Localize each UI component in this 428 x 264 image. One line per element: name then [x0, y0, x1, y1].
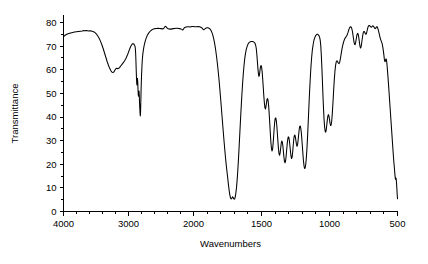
- x-tick-label: 3000: [118, 218, 139, 229]
- y-axis-title: Transmittance: [9, 84, 20, 144]
- spectrum-curve: [64, 26, 398, 200]
- y-axis-tick-labels: 01020304050607080: [46, 17, 57, 217]
- x-axis-title: Wavenumbers: [200, 238, 261, 249]
- y-tick-label: 80: [46, 17, 57, 28]
- y-tick-label: 10: [46, 182, 57, 193]
- y-tick-label: 20: [46, 159, 57, 170]
- x-tick-label: 500: [390, 218, 406, 229]
- y-tick-label: 70: [46, 41, 57, 52]
- x-axis-tick-labels: 40003000200015001000500: [53, 218, 406, 229]
- y-tick-label: 50: [46, 88, 57, 99]
- y-tick-label: 0: [51, 206, 56, 217]
- x-tick-label: 1500: [251, 218, 272, 229]
- y-axis-ticks: [60, 23, 64, 212]
- y-tick-label: 40: [46, 111, 57, 122]
- ir-spectrum-figure: 01020304050607080 4000300020001500100050…: [0, 0, 428, 264]
- x-axis-ticks: [64, 212, 398, 216]
- x-tick-label: 4000: [53, 218, 74, 229]
- spectrum-plot: 01020304050607080 4000300020001500100050…: [0, 0, 428, 264]
- x-tick-label: 2000: [183, 218, 204, 229]
- x-tick-label: 1000: [319, 218, 340, 229]
- y-tick-label: 30: [46, 135, 57, 146]
- y-tick-label: 60: [46, 64, 57, 75]
